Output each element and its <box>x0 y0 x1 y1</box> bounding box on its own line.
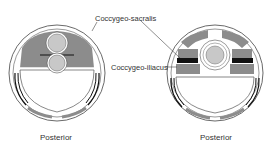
right-pelvis-diagram <box>167 25 263 121</box>
label-coccygeo-sacralis: Coccygeo-sacralis <box>95 14 156 23</box>
left-pelvis-diagram <box>9 25 105 121</box>
left-caption-posterior: Posterior <box>40 133 72 142</box>
sacralis-leader-line <box>141 21 180 58</box>
sacralis-leader-line-left <box>92 22 97 31</box>
label-coccygeo-iliacus: Coccygeo-iliacus <box>111 63 168 72</box>
right-caption-posterior: Posterior <box>200 133 232 142</box>
